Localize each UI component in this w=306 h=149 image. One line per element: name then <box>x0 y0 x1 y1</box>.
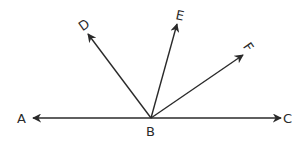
diagram-svg: ACDEFB <box>0 0 306 149</box>
point-label-a: A <box>17 111 26 126</box>
geometry-diagram: ACDEFB <box>0 0 306 149</box>
ray-bd <box>88 34 151 118</box>
ray-bf <box>151 55 243 118</box>
point-label-e: E <box>174 7 185 23</box>
point-label-f: F <box>240 40 257 55</box>
point-label-c: C <box>283 111 292 126</box>
point-label-b: B <box>146 124 155 139</box>
point-label-d: D <box>76 16 93 34</box>
ray-be <box>151 24 177 118</box>
